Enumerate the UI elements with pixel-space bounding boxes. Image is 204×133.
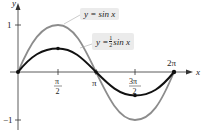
legend-sin-x-text: y = sin x xyxy=(84,9,115,19)
legend-half-prefix: y = xyxy=(96,37,108,47)
x-tick-label-3pi-half-den: 2 xyxy=(133,87,137,96)
x-tick-label-pi-half-den: 2 xyxy=(56,87,60,96)
y-tick-label-1: 1 xyxy=(7,20,12,30)
legend-half-suffix: sin x xyxy=(113,37,130,47)
point-2pi xyxy=(172,70,176,74)
legend-sin-x: y = sin x xyxy=(80,8,119,20)
x-tick-label-3pi-half-num: 3π xyxy=(129,77,137,86)
x-tick-label-2pi: 2π xyxy=(167,58,177,68)
point-pi xyxy=(94,70,98,74)
leader-sin xyxy=(64,15,80,24)
x-axis-arrow-icon xyxy=(186,70,193,75)
legend-half-num: 1 xyxy=(109,35,112,42)
legend-half-den: 2 xyxy=(109,42,112,48)
legend-half-fraction: 1 2 xyxy=(109,35,112,48)
x-tick-label-pi: π xyxy=(92,78,97,88)
x-tick-label-pi-half-num: π xyxy=(55,77,59,86)
x-axis-label: x xyxy=(195,67,200,77)
point-origin xyxy=(16,70,20,74)
y-tick-label-neg1: −1 xyxy=(3,115,13,125)
y-axis-label: y xyxy=(11,0,16,8)
y-axis-arrow-icon xyxy=(16,3,21,10)
point-pi-half xyxy=(56,47,60,51)
legend-half-sin-x: y = 1 2 sin x xyxy=(92,33,134,50)
